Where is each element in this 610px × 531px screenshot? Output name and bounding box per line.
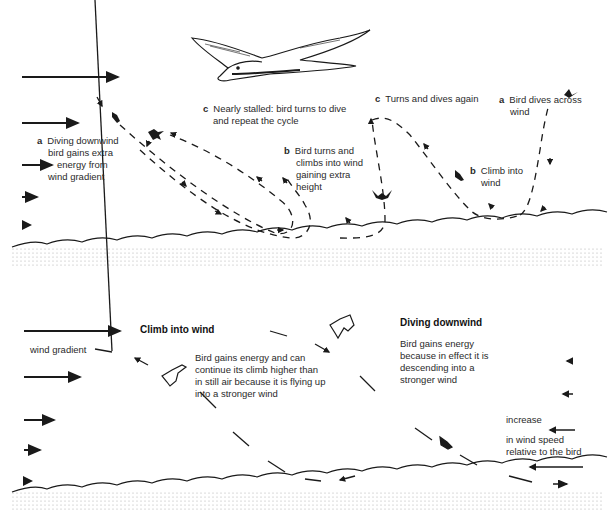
label-line: height xyxy=(284,181,363,193)
label-line: Nearly stalled: bird turns to dive xyxy=(213,103,346,114)
relative-wind-increase-label: increase xyxy=(506,414,542,426)
text-line: continue its climb higher than xyxy=(195,364,325,376)
label-key: c xyxy=(375,93,380,104)
label-line: Bird dives across xyxy=(509,94,581,105)
label-line: Bird turns and xyxy=(295,145,354,156)
bottom-flight-path xyxy=(95,0,532,482)
wind-gradient-label: wind gradient xyxy=(30,344,87,356)
top-sea-waves xyxy=(12,210,607,267)
label-line: climbs into wind xyxy=(284,157,363,169)
label-a-diving-downwind: aDiving downwind bird gains extra energy… xyxy=(37,135,119,183)
label-line: and repeat the cycle xyxy=(203,115,346,127)
text-line: because in effect it is xyxy=(400,350,489,362)
text-line: descending into a xyxy=(400,362,489,374)
label-line: Turns and dives again xyxy=(385,93,478,104)
label-line: wind xyxy=(499,106,582,118)
relative-wind-speed-label: in wind speed relative to the bird xyxy=(506,434,582,458)
text-line: relative to the bird xyxy=(506,446,582,458)
dive-explanation: Bird gains energy because in effect it i… xyxy=(400,338,489,386)
bottom-sea-waves xyxy=(12,455,607,512)
label-key: c xyxy=(203,103,208,114)
label-key: a xyxy=(37,135,42,146)
text-line: into a stronger wind xyxy=(195,388,325,400)
label-line: gaining extra xyxy=(284,169,363,181)
diving-downwind-heading: Diving downwind xyxy=(400,317,482,328)
text-line: in still air because it is flying up xyxy=(195,376,325,388)
seagull-illustration xyxy=(192,30,370,81)
climb-into-wind-heading: Climb into wind xyxy=(140,324,214,335)
label-line: Diving downwind xyxy=(47,135,118,146)
climb-explanation: Bird gains energy and can continue its c… xyxy=(195,352,325,400)
label-c-nearly-stalled: cNearly stalled: bird turns to dive and … xyxy=(203,103,346,127)
label-line: wind xyxy=(470,177,523,189)
label-b-climb-into-wind: bClimb into wind xyxy=(470,165,523,189)
label-key: b xyxy=(470,165,476,176)
label-line: wind gradient xyxy=(37,171,119,183)
label-c-turns-dives-again: cTurns and dives again xyxy=(375,93,478,105)
label-key: b xyxy=(284,145,290,156)
label-b-bird-turns-climbs: bBird turns and climbs into wind gaining… xyxy=(284,145,363,193)
label-a-bird-dives-across: aBird dives across wind xyxy=(499,94,582,118)
label-key: a xyxy=(499,94,504,105)
label-line: bird gains extra xyxy=(37,147,119,159)
label-line: Climb into xyxy=(481,165,523,176)
text-line: in wind speed xyxy=(506,434,582,446)
text-line: Bird gains energy and can xyxy=(195,352,325,364)
text-line: Bird gains energy xyxy=(400,338,489,350)
text-line: stronger wind xyxy=(400,374,489,386)
label-line: energy from xyxy=(37,159,119,171)
